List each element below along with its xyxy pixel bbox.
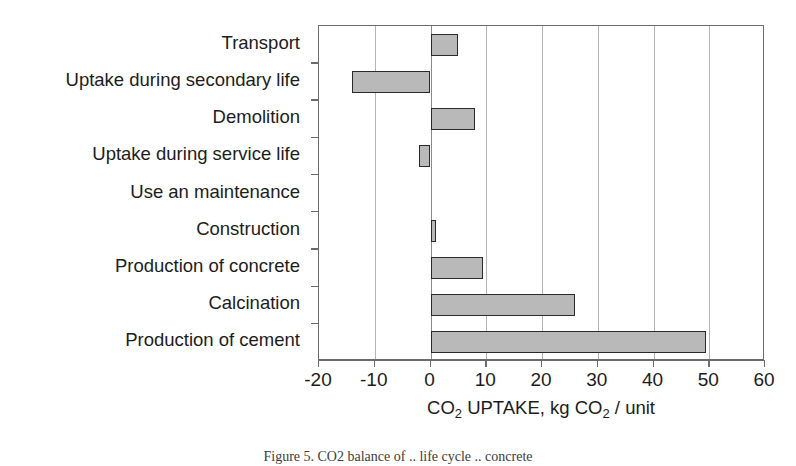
x-axis-tick (708, 360, 709, 367)
x-axis-title-text: CO (427, 397, 455, 418)
y-axis-tick (311, 248, 318, 249)
x-axis-tick-label: 10 (475, 370, 496, 389)
category-label: Production of cement (125, 331, 300, 350)
y-axis-tick (311, 174, 318, 175)
bar (431, 331, 707, 353)
category-label: Transport (222, 34, 300, 53)
x-axis-tick-label: 50 (698, 370, 719, 389)
category-label: Use an maintenance (130, 183, 300, 202)
x-axis-tick (485, 360, 486, 367)
x-axis-tick-label: -20 (304, 370, 331, 389)
bar (419, 145, 430, 167)
gridline (654, 26, 655, 359)
x-axis-tick-label: 20 (530, 370, 551, 389)
bar (352, 71, 430, 93)
x-axis-tick-label: 60 (753, 370, 774, 389)
x-axis-title-text: / unit (610, 397, 655, 418)
bar (431, 108, 476, 130)
x-axis-tick (430, 360, 431, 367)
x-axis-title-text: UPTAKE, kg CO (462, 397, 603, 418)
category-label: Demolition (213, 108, 300, 127)
x-axis-tick (541, 360, 542, 367)
category-label: Calcination (208, 294, 300, 313)
category-label: Uptake during secondary life (66, 71, 300, 90)
subscript: 2 (455, 406, 462, 421)
plot-area (318, 25, 764, 360)
y-axis-tick (311, 137, 318, 138)
x-axis-tick (318, 360, 319, 367)
y-axis-tick (311, 62, 318, 63)
gridline (709, 26, 710, 359)
y-axis-tick (311, 323, 318, 324)
category-label: Construction (196, 220, 300, 239)
x-axis-tick-label: 40 (642, 370, 663, 389)
y-axis-tick (311, 99, 318, 100)
x-axis-tick-label: 30 (586, 370, 607, 389)
gridline (598, 26, 599, 359)
category-label: Production of concrete (115, 257, 300, 276)
bar (431, 294, 576, 316)
x-axis-tick (374, 360, 375, 367)
bar (431, 34, 459, 56)
x-axis-tick (597, 360, 598, 367)
co2-uptake-bar-chart: TransportUptake during secondary lifeDem… (0, 0, 796, 466)
category-label: Uptake during service life (92, 145, 300, 164)
x-axis-tick (764, 360, 765, 367)
figure-caption: Figure 5. CO2 balance of .. life cycle .… (0, 448, 796, 466)
y-axis-tick (311, 286, 318, 287)
y-axis-tick (311, 211, 318, 212)
x-axis-title: CO2 UPTAKE, kg CO2 / unit (318, 399, 764, 418)
bar (431, 220, 437, 242)
x-axis-tick (653, 360, 654, 367)
x-axis-tick-label: 0 (424, 370, 435, 389)
bar (431, 257, 484, 279)
category-axis-labels: TransportUptake during secondary lifeDem… (0, 25, 310, 360)
x-axis-tick-label: -10 (360, 370, 387, 389)
subscript: 2 (603, 406, 610, 421)
